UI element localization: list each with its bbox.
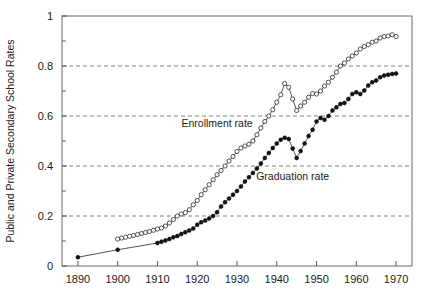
data-point-marker [303, 142, 307, 146]
data-point-marker [378, 36, 382, 40]
data-point-marker [215, 173, 219, 177]
data-point-marker [195, 198, 199, 202]
data-point-marker [291, 97, 295, 101]
y-tick-label: 0.4 [38, 160, 53, 172]
data-point-marker [239, 185, 243, 189]
y-axis-title: Public and Private Secondary School Rate… [4, 39, 16, 242]
data-point-marker [179, 232, 183, 236]
series-enrollment-rate [116, 33, 399, 241]
data-point-marker [323, 118, 327, 122]
data-point-marker [386, 34, 390, 38]
plot-frame-group [62, 16, 412, 266]
data-point-marker [203, 188, 207, 192]
x-tick-label: 1910 [145, 273, 169, 285]
data-point-marker [187, 229, 191, 233]
data-point-marker [346, 97, 350, 101]
data-point-marker [259, 126, 263, 130]
y-tick-label: 1 [47, 10, 53, 22]
data-point-marker [160, 240, 164, 244]
data-point-marker [231, 154, 235, 158]
tickmarks-group [62, 16, 396, 266]
data-point-marker [279, 93, 283, 97]
data-point-marker [164, 239, 168, 243]
data-point-marker [271, 146, 275, 150]
data-point-marker [303, 100, 307, 104]
x-tick-labels-group: 189019001910192019301940195019601970 [66, 273, 409, 285]
x-tick-label: 1950 [304, 273, 328, 285]
x-tick-label: 1940 [265, 273, 289, 285]
x-tick-label: 1890 [66, 273, 90, 285]
data-point-marker [350, 54, 354, 58]
data-point-marker [382, 34, 386, 38]
data-point-marker [394, 34, 398, 38]
series-graduation-rate [76, 72, 398, 260]
data-point-marker [219, 168, 223, 172]
data-point-marker [339, 102, 343, 106]
data-point-marker [378, 75, 382, 79]
data-point-marker [279, 138, 283, 142]
data-point-marker [374, 79, 378, 83]
data-point-marker [310, 91, 314, 95]
data-point-marker [370, 40, 374, 44]
data-point-marker [307, 134, 311, 138]
data-point-marker [267, 151, 271, 155]
data-point-marker [195, 223, 199, 227]
data-point-marker [358, 47, 362, 51]
data-point-marker [314, 92, 318, 96]
data-point-marker [179, 212, 183, 216]
data-point-marker [327, 114, 331, 118]
data-point-marker [319, 116, 323, 120]
data-point-marker [283, 81, 287, 85]
data-point-marker [283, 136, 287, 140]
data-point-marker [295, 156, 299, 160]
chart-figure: 189019001910192019301940195019601970 00.… [0, 0, 428, 301]
data-point-marker [306, 95, 310, 99]
data-point-marker [211, 214, 215, 218]
data-point-marker [370, 80, 374, 84]
data-point-marker [251, 139, 255, 143]
data-point-marker [326, 80, 330, 84]
data-point-marker [159, 226, 163, 230]
data-point-marker [267, 114, 271, 118]
data-point-marker [167, 221, 171, 225]
y-tick-label: 0.2 [38, 210, 53, 222]
data-point-marker [235, 189, 239, 193]
data-point-marker [191, 227, 195, 231]
plot-area-frame [62, 16, 412, 266]
data-point-marker [187, 208, 191, 212]
data-point-marker [183, 211, 187, 215]
data-point-marker [207, 183, 211, 187]
data-point-marker [227, 159, 231, 163]
data-point-marker [239, 146, 243, 150]
data-point-marker [207, 217, 211, 221]
data-point-marker [199, 193, 203, 197]
data-point-marker [131, 233, 135, 237]
data-point-marker [243, 144, 247, 148]
data-point-marker [199, 220, 203, 224]
data-point-marker [311, 128, 315, 132]
data-point-marker [259, 162, 263, 166]
data-point-marker [287, 85, 291, 89]
x-tick-label: 1900 [105, 273, 129, 285]
data-point-marker [116, 237, 120, 241]
data-point-marker [318, 89, 322, 93]
data-point-marker [116, 248, 120, 252]
data-point-marker [366, 43, 370, 47]
data-point-marker [139, 231, 143, 235]
data-point-marker [295, 108, 299, 112]
data-point-marker [163, 224, 167, 228]
data-point-marker [322, 84, 326, 88]
data-point-marker [263, 156, 267, 160]
data-point-marker [386, 73, 390, 77]
x-tick-label: 1920 [185, 273, 209, 285]
data-point-marker [191, 203, 195, 207]
data-point-marker [342, 101, 346, 105]
x-tick-label: 1970 [384, 273, 408, 285]
data-point-marker [120, 236, 124, 240]
series-group [76, 33, 398, 260]
data-point-marker [334, 70, 338, 74]
data-point-marker [299, 104, 303, 108]
data-point-marker [362, 89, 366, 93]
data-point-marker [235, 149, 239, 153]
y-axis-title-group: Public and Private Secondary School Rate… [4, 39, 16, 242]
